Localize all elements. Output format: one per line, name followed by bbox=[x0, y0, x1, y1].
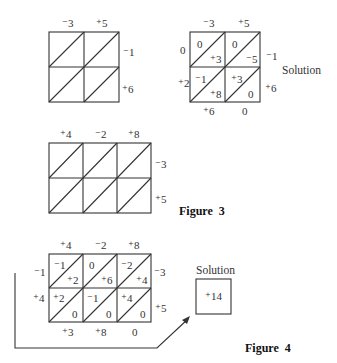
cell-upper: ⁻1 bbox=[195, 73, 207, 85]
column-label: ⁺8 bbox=[128, 239, 140, 251]
column-label: ⁺8 bbox=[128, 128, 140, 140]
column-label: ⁻3 bbox=[62, 17, 74, 29]
row-label: ⁻1 bbox=[266, 50, 278, 62]
cell-lower: 0 bbox=[248, 88, 254, 100]
row-label: ⁺6 bbox=[265, 82, 277, 94]
cell-upper: 0 bbox=[232, 38, 238, 50]
cell-upper: ⁺3 bbox=[231, 73, 243, 85]
column-label: ⁻2 bbox=[95, 239, 107, 251]
column-label: ⁺4 bbox=[60, 128, 72, 140]
cell-upper: ⁻2 bbox=[121, 259, 133, 271]
cell-lower: ⁺4 bbox=[136, 274, 148, 286]
cell-upper: ⁻1 bbox=[54, 259, 66, 271]
solution-label: Solution bbox=[282, 64, 321, 76]
row-label: ⁻3 bbox=[154, 266, 166, 278]
column-label: ⁺5 bbox=[238, 17, 250, 29]
cell-lower: 0 bbox=[106, 308, 112, 320]
left-sum: 0 bbox=[180, 44, 186, 56]
bottom-sum: 0 bbox=[242, 105, 248, 117]
cell-upper: ⁻1 bbox=[87, 292, 99, 304]
cell-upper: 0 bbox=[89, 259, 95, 271]
cell-upper: ⁺4 bbox=[121, 292, 133, 304]
cell-lower: 0 bbox=[72, 308, 78, 320]
row-label: ⁺5 bbox=[155, 302, 167, 314]
row-label: ⁻1 bbox=[123, 46, 135, 58]
column-label: ⁻3 bbox=[203, 17, 215, 29]
bottom-sum: ⁺8 bbox=[95, 326, 107, 338]
figure-3-caption: Figure 3 bbox=[179, 204, 225, 218]
bottom-sum: 0 bbox=[132, 326, 138, 338]
left-sum: ⁺2 bbox=[178, 77, 190, 89]
row-label: ⁺6 bbox=[122, 83, 134, 95]
solution-label: Solution bbox=[196, 264, 235, 276]
row-label: ⁺5 bbox=[155, 193, 167, 205]
cell-lower: ⁺2 bbox=[67, 274, 79, 286]
column-label: ⁻2 bbox=[95, 128, 107, 140]
left-sum: ⁺4 bbox=[33, 292, 45, 304]
cell-upper: ⁺2 bbox=[53, 292, 65, 304]
cell-lower: ⁻5 bbox=[246, 53, 258, 65]
figure-4-caption: Figure 4 bbox=[245, 341, 291, 355]
bottom-sum: ⁺6 bbox=[203, 105, 215, 117]
lattice-multiplication-diagram: ⁻3 ⁺5 ⁻1 ⁺6 ⁻3 ⁺5 ⁻1 ⁺6 0 ⁺3 0 ⁻5 ⁻1 ⁺8 … bbox=[0, 0, 337, 363]
solution-value: ⁺14 bbox=[205, 290, 223, 302]
column-label: ⁺5 bbox=[96, 17, 108, 29]
row-label: ⁻3 bbox=[155, 158, 167, 170]
cell-lower: 0 bbox=[140, 308, 146, 320]
cell-lower: ⁺3 bbox=[210, 53, 222, 65]
cell-lower: ⁺8 bbox=[210, 88, 222, 100]
column-label: ⁺4 bbox=[60, 239, 72, 251]
cell-upper: 0 bbox=[197, 38, 203, 50]
cell-lower: ⁺6 bbox=[101, 274, 113, 286]
left-sum: ⁻1 bbox=[34, 266, 46, 278]
grid-top-left bbox=[49, 32, 119, 102]
grid-figure-3 bbox=[49, 143, 151, 213]
bottom-sum: ⁺3 bbox=[62, 326, 74, 338]
